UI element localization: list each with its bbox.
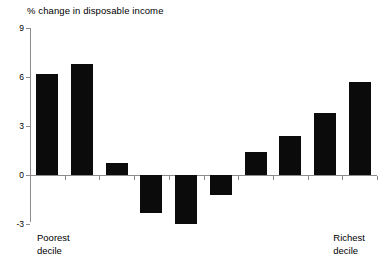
y-tick-mark bbox=[26, 175, 30, 176]
bar bbox=[314, 113, 336, 175]
y-tick-mark bbox=[26, 77, 30, 78]
bar bbox=[36, 74, 58, 175]
bar bbox=[245, 152, 267, 175]
x-tick-mark bbox=[273, 176, 274, 180]
x-tick-mark bbox=[238, 176, 239, 180]
y-tick-label-wrap: 3 bbox=[0, 122, 24, 131]
y-tick-label: 9 bbox=[2, 24, 24, 33]
y-tick-label-wrap: -3 bbox=[0, 220, 24, 229]
y-tick-label-wrap: 0 bbox=[0, 171, 24, 180]
x-tick-mark bbox=[308, 176, 309, 180]
y-tick-label: -3 bbox=[2, 220, 24, 229]
category-label-poorest: Poorest decile bbox=[37, 231, 70, 257]
bar bbox=[175, 175, 197, 224]
bar bbox=[106, 163, 128, 175]
y-tick-mark bbox=[26, 28, 30, 29]
x-tick-mark bbox=[99, 176, 100, 180]
y-tick-label-wrap: 6 bbox=[0, 73, 24, 82]
bar bbox=[210, 175, 232, 195]
y-tick-label: 0 bbox=[2, 171, 24, 180]
y-tick-mark bbox=[26, 126, 30, 127]
y-tick-label-wrap: 9 bbox=[0, 24, 24, 33]
category-label-richest-line1: Richest bbox=[333, 231, 365, 244]
bar bbox=[349, 82, 371, 175]
category-label-richest: Richest decile bbox=[333, 231, 365, 257]
category-label-poorest-line2: decile bbox=[37, 244, 70, 257]
x-tick-mark bbox=[169, 176, 170, 180]
x-tick-mark bbox=[134, 176, 135, 180]
y-axis-line bbox=[30, 28, 31, 222]
x-tick-mark bbox=[65, 176, 66, 180]
category-label-richest-line2: decile bbox=[333, 244, 365, 257]
category-label-poorest-line1: Poorest bbox=[37, 231, 70, 244]
bar bbox=[140, 175, 162, 213]
bar bbox=[71, 64, 93, 175]
chart-title: % change in disposable income bbox=[27, 5, 164, 17]
y-tick-mark bbox=[26, 224, 30, 225]
bar-chart: % change in disposable income 9630-3 Poo… bbox=[0, 0, 387, 269]
y-tick-label: 6 bbox=[2, 73, 24, 82]
y-tick-label: 3 bbox=[2, 122, 24, 131]
x-tick-mark bbox=[204, 176, 205, 180]
x-tick-mark bbox=[377, 176, 378, 180]
x-tick-mark bbox=[342, 176, 343, 180]
bar bbox=[279, 136, 301, 175]
